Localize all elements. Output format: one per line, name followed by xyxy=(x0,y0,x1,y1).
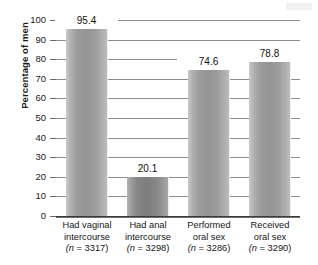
n-symbol: (n xyxy=(188,243,196,253)
n-symbol: (n xyxy=(66,243,74,253)
y-axis-tick-label: 50 xyxy=(16,113,46,123)
y-axis-tick xyxy=(50,157,56,158)
scan-artifact xyxy=(286,3,312,10)
plot-area: 100908070605040302010095.420.174.678.8 xyxy=(56,20,300,216)
y-axis-tick xyxy=(50,98,56,99)
n-symbol: (n xyxy=(249,243,257,253)
n-value: = 3317) xyxy=(74,243,108,253)
y-axis-tick xyxy=(50,118,56,119)
y-axis-tick xyxy=(50,138,56,139)
x-axis-line xyxy=(56,216,300,217)
category-line-1: Received xyxy=(231,220,309,232)
n-value: = 3298) xyxy=(135,243,169,253)
bar-value-label: 78.8 xyxy=(238,48,301,60)
y-axis-tick-label: 0 xyxy=(16,211,46,221)
y-axis-tick-label: 80 xyxy=(16,54,46,64)
n-value: = 3290) xyxy=(257,243,291,253)
y-axis-tick xyxy=(50,196,56,197)
y-axis-tick xyxy=(50,216,56,217)
bar: 95.4 xyxy=(66,29,108,216)
y-axis-tick-label: 70 xyxy=(16,74,46,84)
y-axis-tick xyxy=(50,59,56,60)
y-axis-tick xyxy=(50,40,56,41)
n-value: = 3286) xyxy=(196,243,230,253)
bar: 78.8 xyxy=(249,62,291,216)
bar: 74.6 xyxy=(188,70,230,216)
y-axis-tick-label: 10 xyxy=(16,191,46,201)
y-axis-tick xyxy=(50,177,56,178)
bar-chart-figure: Percentage of men 1009080706050403020100… xyxy=(0,0,318,265)
y-axis-tick-label: 90 xyxy=(16,35,46,45)
category-line-2: oral sex xyxy=(231,232,309,244)
bar-value-label: 74.6 xyxy=(177,56,240,68)
n-symbol: (n xyxy=(127,243,135,253)
bar-value-label: 20.1 xyxy=(116,163,179,175)
y-axis-tick-label: 40 xyxy=(16,133,46,143)
y-axis-tick xyxy=(50,79,56,80)
bar: 20.1 xyxy=(127,177,169,216)
y-axis-tick-label: 30 xyxy=(16,152,46,162)
y-axis-tick-label: 60 xyxy=(16,93,46,103)
y-axis-tick-label: 20 xyxy=(16,172,46,182)
y-axis-tick-label: 100 xyxy=(16,15,46,25)
category-sample-size: (n = 3290) xyxy=(231,243,309,255)
x-axis-category-label: Receivedoral sex(n = 3290) xyxy=(231,220,309,255)
bar-value-label: 95.4 xyxy=(55,15,118,27)
